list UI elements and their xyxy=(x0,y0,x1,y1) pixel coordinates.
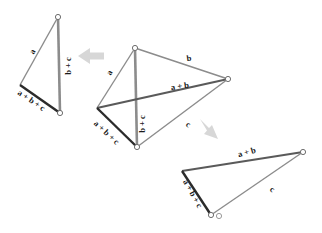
vertex-marker xyxy=(208,212,213,217)
arrow-to-right-icon xyxy=(200,119,218,139)
label-middle-b-plus-c: b + c xyxy=(137,115,147,133)
label-right-c: c xyxy=(268,184,277,194)
vertex-marker xyxy=(55,14,60,19)
middle-edge-b xyxy=(135,48,228,79)
right-triangle-group: a + b c a + b + c xyxy=(181,145,306,219)
label-right-a-plus-b-plus-c: a + b + c xyxy=(181,178,205,210)
label-left-a: a xyxy=(27,47,38,56)
vertex-marker xyxy=(132,45,137,50)
label-middle-c: c xyxy=(184,119,193,130)
vertex-marker xyxy=(57,110,62,115)
label-middle-b: b xyxy=(186,53,192,64)
diagram-canvas: a b + c a + b + c a b a + b c b + c a + … xyxy=(0,0,322,233)
vector-addition-diagram: a b + c a + b + c a b a + b c b + c a + … xyxy=(0,0,322,233)
label-left-b-plus-c: b + c xyxy=(63,57,73,75)
right-edge-c xyxy=(211,152,303,215)
label-middle-a-plus-b: a + b xyxy=(170,80,190,92)
vertex-marker xyxy=(300,149,305,154)
label-middle-a: a xyxy=(104,68,115,77)
vertex-marker xyxy=(225,76,230,81)
vertex-marker xyxy=(134,144,139,149)
label-right-a-plus-b: a + b xyxy=(237,145,257,160)
label-middle-a-plus-b-plus-c: a + b + c xyxy=(92,118,122,147)
left-triangle-group: a b + c a + b + c xyxy=(16,14,73,115)
vertex-marker xyxy=(216,213,221,218)
left-edge-b-plus-c xyxy=(58,17,60,113)
arrow-to-left-icon xyxy=(78,48,104,64)
